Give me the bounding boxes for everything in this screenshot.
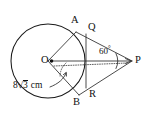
- label-center-o: O: [41, 55, 49, 66]
- label-point-r: R: [89, 89, 96, 100]
- center-point-dot: [50, 59, 54, 63]
- radius-radicand: 3: [23, 80, 28, 91]
- radius-line-oa: [48, 32, 76, 61]
- tangent-line-bp: [79, 61, 132, 95]
- label-radius-measure: 8√3 cm: [13, 80, 42, 91]
- radius-unit: cm: [31, 80, 43, 90]
- label-point-q: Q: [88, 22, 96, 33]
- radius-label-leader: [50, 73, 66, 87]
- angle-value: 60: [99, 46, 108, 56]
- degree-symbol: °: [108, 44, 111, 52]
- label-point-a: A: [71, 15, 79, 26]
- label-point-p: P: [135, 55, 141, 66]
- geometry-diagram: O A B Q R P 60° 8√3 cm: [0, 0, 150, 117]
- angle-arc-center: [60, 63, 66, 76]
- label-angle-at-p: 60°: [99, 47, 111, 56]
- label-point-b: B: [73, 97, 80, 108]
